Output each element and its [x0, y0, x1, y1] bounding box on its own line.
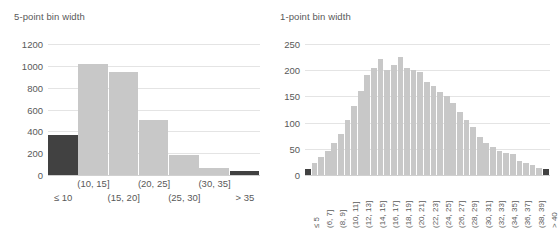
- x-tick-label: (18, 19]: [404, 201, 413, 228]
- bar: [331, 143, 337, 175]
- bar: [464, 120, 470, 175]
- x-tick-label: ≤ 5: [312, 217, 321, 228]
- bar: [109, 72, 139, 175]
- bar: [530, 165, 536, 175]
- y-tick-label: 150: [284, 91, 300, 102]
- x-tick-label: (12, 13]: [364, 201, 373, 228]
- bar: [78, 64, 108, 175]
- bar: [517, 161, 523, 175]
- x-tick-label: (22, 23]: [431, 201, 440, 228]
- bar: [503, 153, 509, 175]
- bar: [437, 92, 443, 175]
- bar: [169, 155, 199, 175]
- x-tick-label: ≤ 10: [54, 192, 72, 203]
- y-tick-label: 600: [27, 104, 43, 115]
- bar: [424, 82, 430, 175]
- x-tick-label: (10, 15]: [77, 178, 109, 189]
- bar: [312, 163, 318, 175]
- bar: [490, 147, 496, 175]
- y-tick-label: 1000: [22, 60, 43, 71]
- x-tick-label: (20, 25]: [138, 178, 170, 189]
- bar: [483, 143, 489, 175]
- panel-1-point-bin-width: 1-point bin width 050100150200250 ≤ 5(6,…: [272, 0, 555, 230]
- y-tick-label: 800: [27, 82, 43, 93]
- y-tick-label: 50: [289, 143, 300, 154]
- bar: [325, 151, 331, 175]
- bar: [230, 171, 260, 175]
- bar: [457, 112, 463, 175]
- bar-series-left: [48, 44, 260, 175]
- bar: [48, 135, 78, 175]
- x-tick-label: (24, 25]: [444, 201, 453, 228]
- x-tick-label: (8, 9]: [338, 210, 347, 228]
- gridline-0: [305, 175, 550, 176]
- x-tick-label: > 35: [235, 192, 254, 203]
- bar: [510, 154, 516, 175]
- bar: [358, 91, 364, 175]
- x-tick-label: (15, 20]: [108, 192, 140, 203]
- bar: [411, 70, 417, 175]
- x-tick-label: (28, 29]: [470, 201, 479, 228]
- x-tick-label: (36, 37]: [523, 201, 532, 228]
- y-tick-label: 200: [284, 65, 300, 76]
- y-tick-label: 250: [284, 39, 300, 50]
- bar: [543, 169, 549, 175]
- bar: [497, 151, 503, 175]
- x-tick-label: (10, 11]: [351, 201, 360, 228]
- chart-title-left: 5-point bin width: [14, 11, 85, 22]
- bar: [404, 68, 410, 175]
- x-tick-label: (26, 27]: [457, 201, 466, 228]
- x-axis-labels-right: ≤ 5(6, 7](8, 9](10, 11](12, 13](14, 15](…: [305, 178, 550, 230]
- plot-area-right: [305, 44, 550, 175]
- bar: [391, 65, 397, 175]
- bar: [199, 168, 229, 175]
- bar: [470, 127, 476, 175]
- bar: [338, 134, 344, 175]
- x-tick-label: (16, 17]: [391, 201, 400, 228]
- x-tick-label: (20, 21]: [417, 201, 426, 228]
- chart-title-right: 1-point bin width: [280, 11, 351, 22]
- bar: [450, 103, 456, 175]
- x-axis-labels-left: (10, 15](20, 25](30, 35]≤ 10(15, 20](25,…: [48, 178, 260, 212]
- bar-series-right: [305, 44, 550, 175]
- bar: [384, 70, 390, 175]
- y-tick-label: 0: [38, 170, 43, 181]
- x-tick-label: (25, 30]: [168, 192, 200, 203]
- y-tick-label: 1200: [22, 39, 43, 50]
- y-tick-label: 200: [27, 148, 43, 159]
- bar: [536, 168, 542, 175]
- y-axis-labels-left: 020040060080010001200: [0, 44, 43, 175]
- x-tick-label: (30, 31]: [484, 201, 493, 228]
- bar: [398, 57, 404, 175]
- y-axis-labels-right: 050100150200250: [272, 44, 300, 175]
- x-tick-label: (32, 33]: [497, 201, 506, 228]
- x-tick-label: (30, 35]: [198, 178, 230, 189]
- bar: [378, 59, 384, 175]
- bar: [431, 86, 437, 175]
- bar: [444, 96, 450, 175]
- y-tick-label: 100: [284, 117, 300, 128]
- x-tick-label: > 40: [550, 212, 559, 228]
- plot-area-left: [48, 44, 260, 175]
- x-tick-label: (6, 7]: [325, 210, 334, 228]
- panel-5-point-bin-width: 5-point bin width 020040060080010001200 …: [0, 0, 272, 230]
- bar: [345, 120, 351, 175]
- bar: [318, 157, 324, 175]
- bar: [477, 137, 483, 175]
- bar: [523, 163, 529, 175]
- bar: [305, 169, 311, 175]
- x-tick-label: (38, 39]: [537, 201, 546, 228]
- y-tick-label: 0: [295, 170, 300, 181]
- y-tick-label: 400: [27, 126, 43, 137]
- bar: [364, 75, 370, 175]
- bar: [371, 68, 377, 175]
- x-tick-label: (14, 15]: [378, 201, 387, 228]
- gridline-0: [48, 175, 260, 176]
- bar: [139, 120, 169, 175]
- x-tick-label: (34, 35]: [510, 201, 519, 228]
- bar: [417, 72, 423, 175]
- bar: [351, 106, 357, 175]
